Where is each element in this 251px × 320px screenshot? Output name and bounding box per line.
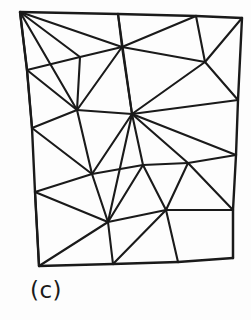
mesh-boundary-edge-1 bbox=[118, 14, 196, 16]
mesh-boundary-edge-12 bbox=[27, 70, 32, 128]
mesh-edge-2 bbox=[20, 12, 122, 47]
mesh-edge-38 bbox=[35, 192, 108, 222]
mesh-edge-10 bbox=[122, 16, 196, 47]
mesh-edge-22 bbox=[77, 110, 132, 114]
mesh-edge-29 bbox=[188, 155, 236, 163]
mesh-edge-44 bbox=[166, 210, 178, 262]
mesh-edge-16 bbox=[205, 18, 242, 62]
mesh-edge-1 bbox=[20, 12, 80, 57]
mesh-boundary-edge-8 bbox=[113, 262, 178, 264]
mesh-edge-17 bbox=[205, 62, 238, 100]
mesh-edge-5 bbox=[27, 70, 77, 110]
mesh-edge-20 bbox=[32, 110, 77, 128]
mesh-boundary-edge-10 bbox=[35, 192, 39, 266]
mesh-edge-40 bbox=[108, 222, 113, 264]
triangular-mesh-diagram bbox=[0, 0, 251, 320]
mesh-edge-33 bbox=[92, 165, 143, 174]
mesh-edge-11 bbox=[122, 47, 205, 62]
mesh-interior-edge-group bbox=[20, 12, 242, 266]
mesh-edge-31 bbox=[166, 163, 188, 210]
mesh-edge-41 bbox=[39, 222, 108, 266]
mesh-boundary-edge-3 bbox=[238, 18, 242, 100]
mesh-edge-36 bbox=[35, 174, 92, 192]
mesh-edge-15 bbox=[196, 16, 205, 62]
mesh-edge-32 bbox=[188, 163, 233, 210]
mesh-boundary-edge-0 bbox=[20, 12, 118, 14]
mesh-boundary-edge-5 bbox=[233, 155, 236, 210]
mesh-boundary-edge-2 bbox=[196, 16, 242, 18]
mesh-edge-35 bbox=[143, 165, 166, 210]
mesh-edge-45 bbox=[113, 210, 166, 264]
mesh-edge-27 bbox=[132, 114, 236, 155]
mesh-edge-34 bbox=[108, 165, 143, 222]
mesh-boundary-edge-4 bbox=[236, 100, 238, 155]
mesh-boundary-edge-group bbox=[20, 12, 242, 266]
mesh-edge-14 bbox=[118, 14, 132, 114]
figure-caption: (c) bbox=[30, 279, 62, 302]
mesh-boundary-edge-11 bbox=[32, 128, 35, 192]
mesh-edge-37 bbox=[92, 174, 108, 222]
figure-container: (c) bbox=[0, 0, 251, 320]
mesh-edge-30 bbox=[143, 163, 188, 165]
mesh-boundary-edge-9 bbox=[39, 264, 113, 266]
mesh-edge-8 bbox=[77, 57, 80, 110]
mesh-boundary-edge-7 bbox=[178, 258, 233, 262]
